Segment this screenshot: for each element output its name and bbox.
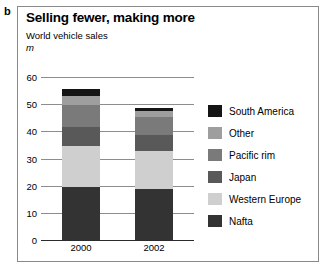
legend-item[interactable]: Other — [208, 122, 301, 144]
legend-item[interactable]: Nafta — [208, 210, 301, 232]
bar-segment[interactable] — [62, 89, 100, 96]
chart-unit-label: m — [26, 42, 34, 53]
legend-color-swatch — [208, 127, 222, 139]
bar-segment[interactable] — [62, 127, 100, 146]
bar-segment[interactable] — [135, 111, 173, 118]
legend-item-label: Japan — [229, 172, 256, 183]
legend-color-swatch — [208, 215, 222, 227]
legend-item-label: Other — [229, 128, 254, 139]
y-axis-tick-label: 40 — [26, 127, 37, 136]
y-axis-tick-label: 20 — [26, 182, 37, 191]
legend-item[interactable]: Pacific rim — [208, 144, 301, 166]
legend-item-label: Western Europe — [229, 194, 301, 205]
panel-letter-label: b — [4, 6, 11, 17]
bar-segment[interactable] — [135, 189, 173, 241]
chart-panel: b Selling fewer, making more World vehic… — [0, 0, 327, 271]
legend-color-swatch — [208, 193, 222, 205]
y-axis-tick-label: 10 — [26, 209, 37, 218]
legend-item[interactable]: Japan — [208, 166, 301, 188]
y-axis-tick-label: 30 — [26, 155, 37, 164]
bar-segment[interactable] — [135, 135, 173, 151]
y-gridline: 60 — [41, 77, 194, 78]
x-axis-tick-label: 2002 — [128, 243, 180, 253]
chart-title: Selling fewer, making more — [26, 10, 195, 25]
bar-segment[interactable] — [62, 146, 100, 187]
bar-column[interactable] — [135, 108, 173, 241]
x-axis-line — [41, 240, 194, 241]
legend-item[interactable]: South America — [208, 100, 301, 122]
chart-subtitle: World vehicle sales — [26, 30, 108, 41]
y-axis-tick-label: 60 — [26, 73, 37, 82]
bar-segment[interactable] — [62, 96, 100, 106]
legend-color-swatch — [208, 105, 222, 117]
legend-item-label: Pacific rim — [229, 150, 275, 161]
bar-column[interactable] — [62, 89, 100, 241]
legend-color-swatch — [208, 149, 222, 161]
legend-color-swatch — [208, 171, 222, 183]
y-axis-tick-label: 0 — [32, 236, 37, 245]
legend-item[interactable]: Western Europe — [208, 188, 301, 210]
y-axis-tick-label: 50 — [26, 100, 37, 109]
bar-segment[interactable] — [62, 187, 100, 241]
plot-area: 010203040506020002002 — [41, 78, 194, 241]
bar-segment[interactable] — [135, 151, 173, 189]
bar-segment[interactable] — [62, 105, 100, 127]
legend-item-label: South America — [229, 106, 294, 117]
bar-segment[interactable] — [135, 117, 173, 135]
legend-item-label: Nafta — [229, 216, 253, 227]
x-axis-tick-label: 2000 — [55, 243, 107, 253]
chart-legend: South AmericaOtherPacific rimJapanWester… — [208, 100, 301, 232]
